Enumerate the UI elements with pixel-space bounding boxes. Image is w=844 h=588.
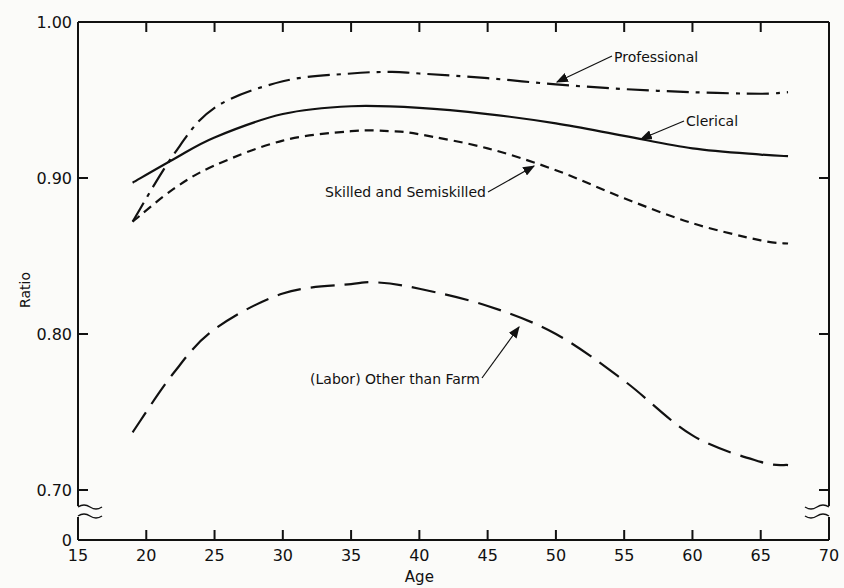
annotation-label: (Labor) Other than Farm [310, 371, 480, 387]
annotation-label: Professional [614, 49, 698, 65]
x-tick-label: 30 [273, 546, 293, 565]
axis-break-icon [78, 505, 102, 509]
x-tick-label: 70 [819, 546, 839, 565]
y-tick-label: 0.70 [36, 481, 72, 500]
annotation-label: Clerical [686, 113, 738, 129]
annotation-arrow [557, 56, 612, 82]
axes: 1520253035404550556065700.700.800.901.00… [17, 13, 839, 586]
annotation-arrow [641, 121, 684, 139]
axis-break-icon [805, 514, 829, 518]
y-tick-label: 0.90 [36, 169, 72, 188]
x-tick-label: 50 [546, 546, 566, 565]
axis-break-icon [78, 514, 102, 518]
x-axis-title: Age [405, 568, 434, 586]
line-chart: 1520253035404550556065700.700.800.901.00… [0, 0, 844, 588]
x-tick-label: 20 [136, 546, 156, 565]
series-lines [133, 72, 788, 465]
axis-break-icon [805, 505, 829, 509]
annotation-arrow [482, 327, 519, 378]
x-tick-label: 40 [409, 546, 429, 565]
y-axis-title: Ratio [17, 272, 33, 308]
x-tick-label: 60 [682, 546, 702, 565]
y-origin-label: 0 [62, 531, 72, 550]
y-tick-label: 0.80 [36, 325, 72, 344]
annotation-arrow [488, 166, 534, 192]
annotation-label: Skilled and Semiskilled [325, 184, 486, 200]
x-tick-label: 45 [477, 546, 497, 565]
x-tick-label: 55 [614, 546, 634, 565]
x-tick-label: 65 [751, 546, 771, 565]
x-tick-label: 25 [204, 546, 224, 565]
y-tick-label: 1.00 [36, 13, 72, 32]
x-tick-label: 35 [341, 546, 361, 565]
